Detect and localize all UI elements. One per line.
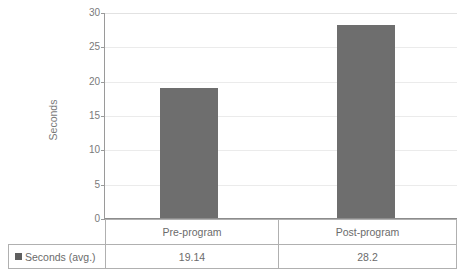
- table-value-post-program: 28.2: [279, 245, 456, 268]
- data-table: Pre-program Post-program Seconds (avg.) …: [8, 219, 457, 269]
- gridline-5: [105, 185, 457, 186]
- table-border-right: [456, 219, 457, 269]
- y-axis-title: Seconds: [44, 80, 62, 160]
- y-tick-label-30: 30: [66, 8, 100, 18]
- gridline-15: [105, 116, 457, 117]
- y-axis-labels: 30 25 20 15 10 5 0: [60, 13, 100, 219]
- y-tick-label-10: 10: [66, 145, 100, 155]
- table-legend-label: Seconds (avg.): [25, 251, 96, 263]
- bar-pre-program: [160, 88, 218, 219]
- y-axis-title-text: Seconds: [47, 100, 59, 141]
- table-legend-cell: Seconds (avg.): [9, 245, 111, 268]
- y-axis-tickmarks: [105, 13, 106, 219]
- y-tickmark-30: [101, 13, 105, 14]
- table-header-pre-program: Pre-program: [106, 220, 278, 244]
- plot-area: [105, 13, 457, 219]
- y-tickmark-20: [101, 82, 105, 83]
- gridline-25: [105, 47, 457, 48]
- y-tickmark-15: [101, 116, 105, 117]
- y-tick-label-20: 20: [66, 77, 100, 87]
- gridline-10: [105, 150, 457, 151]
- y-tick-label-25: 25: [66, 42, 100, 52]
- table-value-pre-program: 19.14: [106, 245, 278, 268]
- table-rule-bottom: [8, 268, 457, 269]
- y-tickmark-25: [101, 47, 105, 48]
- y-tick-label-15: 15: [66, 111, 100, 121]
- chart-title: [0, 0, 465, 2]
- legend-swatch-icon: [15, 253, 22, 260]
- gridline-20: [105, 82, 457, 83]
- y-tickmark-10: [101, 150, 105, 151]
- table-header-post-program: Post-program: [279, 220, 456, 244]
- y-tick-label-5: 5: [66, 180, 100, 190]
- bar-chart: 30 25 20 15 10 5 0 Seconds Pre-program P…: [0, 0, 465, 279]
- y-tickmark-5: [101, 185, 105, 186]
- gridline-30: [105, 13, 457, 14]
- bar-post-program: [337, 25, 395, 219]
